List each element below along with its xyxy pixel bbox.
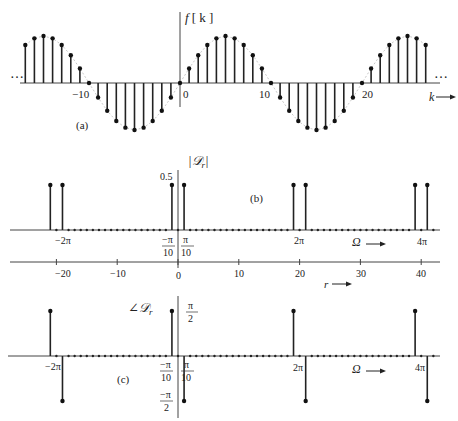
a-stem-dot [114,119,118,123]
c-stem-dot [303,399,307,403]
b-zero-dot [165,229,167,231]
b-zero-dot [280,229,282,231]
b-tick-pi10: π 10 [181,234,194,258]
a-stem-dot [169,95,173,99]
a-stem-dot [232,36,236,40]
b-zero-dot [384,229,386,231]
c-zero-dot [165,355,167,357]
a-stem-dot [205,43,209,47]
b-stem-dot [291,183,295,187]
c-zero-dot [323,355,325,357]
b-zero-dot [177,229,179,231]
b-zero-dot [274,229,276,231]
b-zero-dot [317,229,319,231]
b-ytick-05: 0.5 [160,171,173,182]
a-stem-dot [223,34,227,38]
c-panel-label: (c) [117,373,130,386]
b-zero-dot [232,229,234,231]
b-zero-dot [402,229,404,231]
a-stem-dot [405,34,409,38]
c-zero-dot [365,355,367,357]
b-zero-dot [262,229,264,231]
svg-text:π: π [183,234,188,245]
a-stem-dot [214,36,218,40]
b-zero-dot [365,229,367,231]
a-stem-dot [360,81,364,85]
svg-text:π: π [184,359,189,370]
b-stem-dot [182,183,186,187]
c-zero-dot [92,355,94,357]
c-zero-dot [396,355,398,357]
a-stem-dot [23,43,27,47]
c-zero-dot [80,355,82,357]
svg-text:−π: −π [160,389,171,400]
a-stem-dot [105,109,109,113]
b-zero-dot [347,229,349,231]
svg-text:10: 10 [181,247,191,258]
a-stem-dot [141,125,145,129]
b-omega-arrow [366,242,386,247]
c-zero-dot [122,355,124,357]
c-ylabel: ∠𝒟r [128,300,153,317]
b-zero-dot [268,229,270,231]
c-zero-dot [128,355,130,357]
c-zero-dot [268,355,270,357]
b-stem-dot [170,183,174,187]
c-zero-dot [390,355,392,357]
svg-text:2: 2 [188,313,193,324]
b-zero-dot [256,229,258,231]
b-tick-mpi10: −π 10 [162,234,175,258]
c-zero-dot [238,355,240,357]
a-ylabel: f[ k ] [185,10,213,25]
c-zero-dot [104,355,106,357]
b-zero-dot [225,229,227,231]
c-zero-dot [116,355,118,357]
r-tick-m20: −20 [55,268,71,279]
c-ytick-mpi2: −π 2 [160,389,173,413]
c-zero-dot [55,355,57,357]
c-zero-dot [353,355,355,357]
c-tick-m2pi: −2π [45,361,61,372]
b-zero-dot [420,229,422,231]
a-stem-dot [387,43,391,47]
svg-text:π: π [188,300,193,311]
b-stem-dot [413,183,417,187]
r-tick-30: 30 [356,268,366,279]
c-zero-dot [335,355,337,357]
b-zero-dot [311,229,313,231]
c-zero-dot [341,355,343,357]
c-stem-dot [182,399,186,403]
b-zero-dot [371,229,373,231]
a-stem-dot [50,36,54,40]
a-stem-dot [187,66,191,70]
a-stem-dot [132,128,136,132]
b-ylabel: |𝒟r| [188,153,209,170]
c-zero-dot [274,355,276,357]
b-stem-dot [60,183,64,187]
b-zero-dot [390,229,392,231]
a-ellipsis-left: … [10,66,24,81]
b-stem-dot [303,183,307,187]
b-zero-dot [80,229,82,231]
c-zero-dot [67,355,69,357]
b-zero-dot [146,229,148,231]
a-panel-label: (a) [76,119,89,132]
b-zero-dot [213,229,215,231]
c-zero-dot [280,355,282,357]
a-stem-dot [269,81,273,85]
c-zero-dot [359,355,361,357]
b-tick-4pi: 4π [417,236,427,247]
a-stem-dot [87,81,91,85]
a-ellipsis-right: … [434,66,448,81]
a-stem-dot [414,36,418,40]
b-zero-dot [92,229,94,231]
b-stem-dot [48,183,52,187]
a-stem-dot [60,43,64,47]
b-zero-dot [335,229,337,231]
c-zero-dot [402,355,404,357]
b-panel-label: (b) [250,192,263,205]
c-ytick-pi2: π 2 [186,300,198,324]
c-zero-dot [420,355,422,357]
c-zero-dot [213,355,215,357]
svg-text:10: 10 [161,372,171,383]
